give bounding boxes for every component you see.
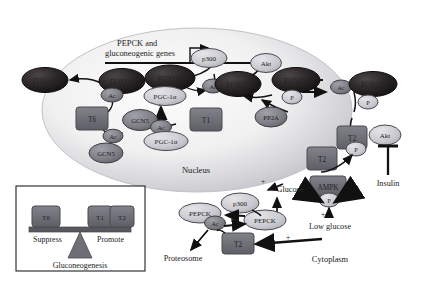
node-label: Ac [109, 133, 116, 140]
node-pgc1a-bottom: PGC-1α [144, 132, 188, 151]
edge-pepck-right-to-ac [226, 215, 245, 216]
node-label: T1 [202, 117, 210, 125]
plus-sign-t2low: + [286, 233, 290, 242]
nucleus-label: Nucleus [182, 165, 211, 175]
node-p-akt: P [346, 142, 366, 156]
pathway-diagram: PEPCK and gluconeogenic genes FOXO1 FOXO… [0, 0, 421, 285]
node-t6: T6 [76, 107, 108, 130]
gene-label-line2: gluconeogenic genes [105, 49, 175, 58]
node-label: Akt [380, 132, 391, 140]
node-label: Akt [261, 60, 272, 68]
node-ac-pepck: Ac [205, 216, 226, 230]
plus-sign-glucose: + [261, 177, 265, 186]
node-pp2a: PP2A [255, 107, 287, 127]
node-foxo1-phospho-nucleus: FOXO1 [272, 68, 320, 93]
gene-label-line1: PEPCK and [117, 39, 158, 48]
legend-block-label: T2 [118, 214, 126, 222]
node-label: FOXO1 [158, 75, 183, 84]
legend-block-t2: T2 [110, 206, 134, 227]
edge-ac-to-pepck-right [224, 224, 245, 226]
node-label: T2 [234, 241, 242, 249]
node-gcn5-lower: GCN5 [89, 143, 123, 163]
node-ac-cytoplasm: Ac [331, 80, 352, 94]
node-label: p300 [202, 55, 217, 63]
legend-block-label: T6 [42, 214, 50, 222]
plus-sign-lowglucose: + [321, 210, 325, 219]
node-pgc1a-top: PGC-1α [144, 87, 186, 106]
node-label: AMPK [317, 183, 339, 192]
node-foxo1-cytoplasm: FOXO1 [349, 72, 397, 97]
node-label: FOXO1 [110, 78, 134, 87]
node-pepck-right: PEPCK [244, 210, 286, 230]
node-label: p300 [233, 200, 248, 208]
node-foxo1-mid: FOXO1 [215, 72, 261, 97]
legend-block-label: T1 [96, 214, 104, 222]
node-label: GCN5 [131, 117, 149, 124]
legend-gluconeogenesis-label: Gluconeogenesis [53, 261, 108, 270]
node-label: FOXO1 [284, 77, 308, 86]
node-label: T2 [318, 156, 326, 164]
node-p-nucleus: P [282, 90, 302, 104]
glucose-label: Glucose [277, 185, 304, 194]
node-label: PGC-1α [155, 138, 178, 145]
figure-canvas: PEPCK and gluconeogenic genes FOXO1 FOXO… [0, 0, 421, 285]
edge-ac-to-proteosome [191, 230, 208, 250]
node-label: P [366, 99, 370, 106]
node-t2-mid-block: T2 [307, 147, 337, 170]
node-t2-low-block: T2 [222, 233, 254, 254]
node-label: P [354, 146, 358, 153]
node-label: Ac [211, 220, 218, 227]
node-label: PGC-1α [154, 93, 177, 100]
legend-promote-label: Promote [97, 235, 125, 244]
node-t1: T1 [190, 108, 222, 131]
node-label: FOXO1 [226, 81, 250, 90]
node-ac-left: Ac [101, 88, 123, 102]
edge-t2low-to-ac [217, 230, 225, 233]
node-label: PP2A [263, 114, 279, 121]
node-label: FOXO1 [361, 81, 385, 90]
insulin-inhibition-marker [378, 145, 398, 175]
node-akt-cytoplasm: Akt [369, 125, 401, 145]
node-label: GCN5 [97, 150, 115, 157]
low-glucose-label: Low glucose [309, 222, 351, 231]
node-p-ampk: P [319, 193, 339, 207]
node-akt-nucleus: Akt [251, 54, 282, 73]
node-foxo1-exported: FOXO1 [22, 68, 68, 93]
node-p-cytoplasm: P [358, 95, 378, 109]
node-label: PEPCK [189, 210, 211, 218]
node-label: P [290, 94, 294, 101]
node-label: P [327, 197, 331, 204]
legend-suppress-label: Suppress [33, 235, 62, 244]
node-label: FOXO1 [33, 77, 57, 86]
legend-block-t1: T1 [88, 206, 112, 227]
node-p300-nucleus: p300 [191, 49, 227, 68]
legend-panel: T6 T1 T2 Suppress Promote Gluconeogenesi… [16, 186, 145, 271]
node-label: PEPCK [254, 217, 276, 225]
node-label: T6 [88, 116, 96, 124]
node-label: Ac [108, 92, 115, 99]
node-ac-gcn5: Ac [103, 129, 123, 143]
node-label: Ac [157, 124, 164, 131]
insulin-label: Insulin [377, 179, 400, 188]
proteosome-label: Proteosome [164, 254, 203, 263]
node-label: Ac [337, 84, 344, 91]
cytoplasm-label: Cytoplasm [312, 255, 349, 264]
legend-block-t6: T6 [32, 206, 60, 227]
